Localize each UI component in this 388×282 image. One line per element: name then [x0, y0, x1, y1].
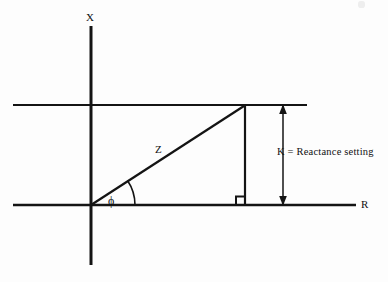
impedance-triangle-diagram [0, 0, 388, 282]
angle-arc [128, 181, 136, 206]
page-artifact-smudge [358, 1, 365, 8]
reactance-setting-label: K = Reactance setting [277, 147, 374, 158]
phase-angle-label: ϕ [108, 195, 114, 207]
x-axis-label: X [86, 12, 94, 23]
impedance-vector-line [91, 105, 246, 205]
impedance-vector-label: Z [155, 144, 162, 155]
r-axis-label: R [361, 199, 368, 210]
figure-canvas: X R Z ϕ K = Reactance setting [0, 0, 388, 282]
